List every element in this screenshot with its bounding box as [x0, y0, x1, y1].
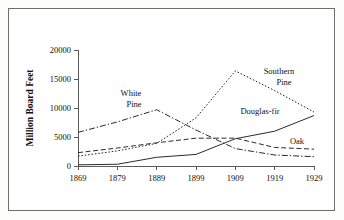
- series-annotation-oak: Oak: [290, 136, 305, 146]
- line-chart: 0500010000150002000018691879188918991909…: [9, 9, 334, 210]
- series-line-oak: [78, 138, 314, 153]
- figure-frame-border: 0500010000150002000018691879188918991909…: [8, 8, 335, 211]
- y-tick-label: 20000: [50, 45, 71, 55]
- x-tick-label: 1909: [227, 173, 244, 183]
- series-line-white-pine: [78, 110, 314, 157]
- y-tick-label: 5000: [54, 132, 71, 142]
- y-axis-title: Million Board Feet: [25, 69, 35, 147]
- x-tick-label: 1919: [266, 173, 283, 183]
- series-annotation-douglas-fir: Douglas-fir: [240, 106, 279, 116]
- x-tick-label: 1929: [306, 173, 323, 183]
- x-tick-label: 1869: [70, 173, 87, 183]
- x-tick-label: 1899: [188, 173, 205, 183]
- series-annotation-white: White: [121, 88, 142, 98]
- figure-container: 0500010000150002000018691879188918991909…: [0, 0, 344, 220]
- y-tick-label: 15000: [50, 74, 71, 84]
- y-tick-label: 0: [67, 161, 71, 171]
- x-tick-label: 1879: [109, 173, 126, 183]
- series-annotation-southern: Southern: [264, 66, 295, 76]
- x-tick-label: 1889: [148, 173, 165, 183]
- y-tick-label: 10000: [50, 103, 71, 113]
- series-annotation-pine: Pine: [276, 77, 291, 87]
- series-annotation-pine: Pine: [126, 99, 141, 109]
